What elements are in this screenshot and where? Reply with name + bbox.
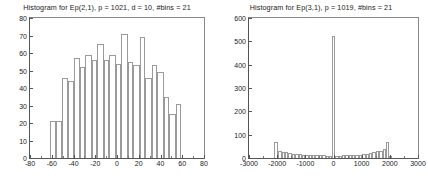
x-axis-tick-label: 2000 — [382, 160, 398, 167]
chart-panel-right: Histogram for Ep(3,1), p = 1019, #bins =… — [214, 0, 428, 183]
y-axis-tick-label: 300 — [234, 85, 246, 92]
x-axis-tick-label: -20 — [90, 160, 100, 167]
x-axis-tick-label: 1000 — [354, 160, 370, 167]
x-axis-tick-label: 60 — [178, 160, 186, 167]
histogram-bar — [145, 78, 152, 159]
x-axis-minor-tick — [319, 156, 320, 158]
plot-area-right: 0100200300400500600-3000-2000-1000010002… — [249, 18, 418, 158]
y-axis-tick — [30, 141, 33, 142]
x-axis-tick — [305, 155, 306, 158]
histogram-bar — [332, 36, 335, 159]
chart-title-right: Histogram for Ep(3,1), p = 1019, #bins =… — [214, 3, 428, 12]
axes-right: 0100200300400500600-3000-2000-1000010002… — [248, 17, 419, 159]
x-axis-tick — [204, 155, 205, 158]
figure-canvas: Histogram for Ep(2,1), p = 1021, d = 10,… — [0, 0, 428, 183]
y-axis-tick-label: 200 — [234, 108, 246, 115]
x-axis-tick — [362, 155, 363, 158]
y-axis-tick — [30, 36, 33, 37]
x-axis-tick-label: 80 — [200, 160, 208, 167]
y-axis-tick-label: 10 — [19, 137, 27, 144]
histogram-bar — [176, 104, 181, 158]
x-axis-tick-label: 20 — [135, 160, 143, 167]
y-axis-tick-label: 60 — [19, 50, 27, 57]
y-axis-tick — [30, 18, 33, 19]
y-axis-tick — [249, 18, 252, 19]
axes-left: 01020304050607080-80-60-40-20020406080 — [29, 17, 205, 159]
chart-panel-left: Histogram for Ep(2,1), p = 1021, d = 10,… — [0, 0, 214, 183]
y-axis-tick — [249, 158, 252, 159]
x-axis-tick — [277, 155, 278, 158]
x-axis-minor-tick — [150, 156, 151, 158]
y-axis-tick-label: 100 — [234, 131, 246, 138]
x-axis-tick — [249, 155, 250, 158]
x-axis-minor-tick — [376, 156, 377, 158]
x-axis-tick-label: -60 — [47, 160, 57, 167]
x-axis-minor-tick — [291, 156, 292, 158]
chart-title-left: Histogram for Ep(2,1), p = 1021, d = 10,… — [0, 3, 214, 12]
y-axis-tick — [30, 106, 33, 107]
x-axis-tick — [95, 155, 96, 158]
histogram-bar — [121, 34, 128, 158]
x-axis-tick-label: -3000 — [240, 160, 258, 167]
y-axis-tick-label: 30 — [19, 102, 27, 109]
y-axis-tick — [249, 41, 252, 42]
y-axis-tick-label: 400 — [234, 61, 246, 68]
y-axis-tick — [30, 88, 33, 89]
histogram-bar — [62, 78, 69, 159]
y-axis-tick — [249, 135, 252, 136]
y-axis-tick-label: 500 — [234, 38, 246, 45]
x-axis-tick-label: -1000 — [296, 160, 314, 167]
x-axis-minor-tick — [63, 156, 64, 158]
x-axis-tick — [334, 155, 335, 158]
y-axis-tick-label: 80 — [19, 15, 27, 22]
y-axis-tick — [249, 111, 252, 112]
y-axis-tick — [249, 65, 252, 66]
x-axis-minor-tick — [404, 156, 405, 158]
x-axis-tick-label: -80 — [25, 160, 35, 167]
y-axis-tick — [30, 71, 33, 72]
x-axis-minor-tick — [106, 156, 107, 158]
x-axis-tick-label: -40 — [68, 160, 78, 167]
x-axis-tick — [418, 155, 419, 158]
x-axis-tick-label: 0 — [332, 160, 336, 167]
x-axis-minor-tick — [84, 156, 85, 158]
y-axis-tick — [30, 53, 33, 54]
x-axis-tick-label: 40 — [157, 160, 165, 167]
y-axis-tick — [30, 158, 33, 159]
x-axis-tick-label: -2000 — [268, 160, 286, 167]
y-axis-tick-label: 20 — [19, 120, 27, 127]
x-axis-tick-label: 0 — [115, 160, 119, 167]
x-axis-tick — [117, 155, 118, 158]
x-axis-minor-tick — [128, 156, 129, 158]
x-axis-tick — [139, 155, 140, 158]
y-axis-tick-label: 70 — [19, 32, 27, 39]
x-axis-tick — [74, 155, 75, 158]
x-axis-tick — [182, 155, 183, 158]
y-axis-tick-label: 600 — [234, 15, 246, 22]
x-axis-tick — [30, 155, 31, 158]
x-axis-minor-tick — [348, 156, 349, 158]
histogram-bar — [50, 121, 57, 158]
y-axis-tick — [30, 123, 33, 124]
y-axis-tick-label: 40 — [19, 85, 27, 92]
y-axis-tick — [249, 88, 252, 89]
histogram-bar — [85, 55, 92, 158]
x-axis-minor-tick — [193, 156, 194, 158]
x-axis-minor-tick — [41, 156, 42, 158]
x-axis-tick-label: 3000 — [410, 160, 426, 167]
x-axis-tick — [390, 155, 391, 158]
x-axis-minor-tick — [263, 156, 264, 158]
plot-area-left: 01020304050607080-80-60-40-20020406080 — [30, 18, 204, 158]
x-axis-tick — [161, 155, 162, 158]
x-axis-tick — [52, 155, 53, 158]
y-axis-tick-label: 50 — [19, 67, 27, 74]
histogram-bar — [169, 114, 176, 158]
histogram-bar — [109, 55, 116, 158]
x-axis-minor-tick — [171, 156, 172, 158]
